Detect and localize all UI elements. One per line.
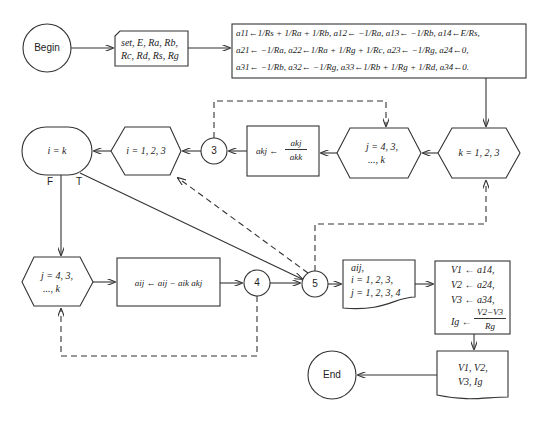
begin-label: Begin <box>23 42 71 54</box>
output-matrix-line2: i = 1, 2, 3, <box>351 274 393 286</box>
normalize-lhs: akj ← <box>256 145 278 157</box>
compute-lhs: Ig ← <box>451 316 472 328</box>
decision-label: i = k <box>24 145 90 157</box>
assign-line3: a31← −1/Rb, a32← −1/Rg, a33←1/Rb + 1/Rg … <box>236 61 469 73</box>
eliminate-label: aij ← aij − aik akj <box>119 277 218 289</box>
output-result-line1: V1, V2, <box>458 362 488 374</box>
compute-den: Rg <box>474 320 506 332</box>
loop-k-label: k = 1, 2, 3 <box>440 147 518 159</box>
compute-line1: V1 ← a14, <box>451 264 495 276</box>
loop-j1-shape <box>337 128 421 178</box>
decision-true-label: T <box>76 176 82 188</box>
compute-line3: V3 ← a34, <box>451 294 495 306</box>
connector5-label: 5 <box>305 278 325 290</box>
normalize-num: akj <box>285 137 307 150</box>
connector4-label: 4 <box>247 277 267 289</box>
compute-line2: V2 ← a24, <box>451 279 495 291</box>
loop-j2-line2: ..., k <box>43 283 60 295</box>
loop-j1-line2: ..., k <box>368 154 385 166</box>
compute-num: V2−V3 <box>474 306 506 319</box>
output-matrix-line3: j = 1, 2, 3, 4 <box>351 287 401 299</box>
output-result-shape <box>437 351 508 399</box>
output-result-line2: V3, Ig <box>458 376 482 388</box>
input-line1: set, E, Ra, Rb, <box>121 37 178 49</box>
end-label: End <box>308 369 356 381</box>
assign-line2: a21← −1/Ra, a22←1/Ra + 1/Rg + 1/Rc, a23←… <box>236 44 469 56</box>
loop-i-label: i = 1, 2, 3 <box>115 145 177 157</box>
connector3-label: 3 <box>204 145 224 157</box>
loop-j1-line1: j = 4, 3, <box>366 141 398 153</box>
output-matrix-line1: aij, <box>351 262 364 274</box>
decision-false-label: F <box>47 176 53 188</box>
loop-j2-line1: j = 4, 3, <box>41 270 73 282</box>
normalize-den: akk <box>285 151 307 163</box>
input-line2: Rc, Rd, Rs, Rg <box>121 50 179 62</box>
assign-line1: a11←1/Rs + 1/Ra + 1/Rb, a12← −1/Ra, a13←… <box>236 27 480 39</box>
